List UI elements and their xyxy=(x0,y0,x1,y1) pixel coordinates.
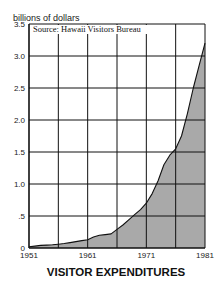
chart-canvas: billions of dollars Source: Hawaii Visit… xyxy=(0,0,219,288)
y-tick-label: 2.0 xyxy=(14,116,26,125)
y-tick-label: 3.5 xyxy=(14,20,26,29)
source-note: Source: Hawaii Visitors Bureau xyxy=(33,24,141,34)
y-tick-label: 2.5 xyxy=(14,84,26,93)
x-tick-label: 1981 xyxy=(196,251,214,260)
visitor-expenditures-chart: billions of dollars Source: Hawaii Visit… xyxy=(0,0,219,288)
y-tick-label: 3.0 xyxy=(14,52,26,61)
x-tick-label: 1961 xyxy=(79,251,97,260)
x-axis-ticks: 1951196119711981 xyxy=(20,251,214,260)
y-tick-label: .5 xyxy=(18,212,25,221)
source-note-box: Source: Hawaii Visitors Bureau xyxy=(30,24,154,34)
chart-title: VISITOR EXPENDITURES xyxy=(47,266,186,278)
y-tick-label: 1.5 xyxy=(14,148,26,157)
x-tick-label: 1951 xyxy=(20,251,38,260)
y-tick-label: 1.0 xyxy=(14,180,26,189)
y-axis-ticks: 0.51.01.52.02.53.03.5 xyxy=(14,20,26,253)
x-tick-label: 1971 xyxy=(137,251,155,260)
